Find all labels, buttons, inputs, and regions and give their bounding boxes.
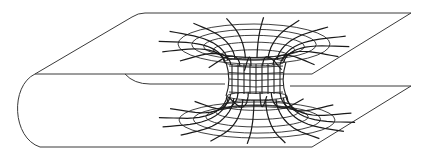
fold-inner-edge (125, 74, 225, 84)
funnel-radial-line (286, 95, 352, 116)
funnel-radial-line (257, 17, 264, 58)
wormhole-throat (226, 62, 286, 96)
fold-outer-arc (18, 74, 40, 147)
top-plane-edge (35, 13, 411, 74)
funnel-ring (179, 102, 335, 138)
wormhole-diagram: Wormhole connecting two regions of a fol… (0, 0, 424, 156)
funnel-radial-line (195, 93, 238, 109)
diagram-canvas (0, 0, 424, 156)
top-plane-left-edge (35, 13, 145, 74)
bottom-mouth-funnel (159, 92, 355, 144)
top-mouth-funnel (159, 17, 350, 70)
